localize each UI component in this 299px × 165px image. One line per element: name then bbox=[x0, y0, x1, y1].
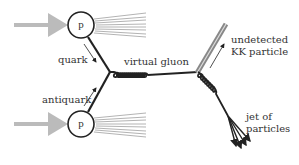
antiquark-label: antiquark bbox=[42, 95, 91, 105]
outgoing-gluon-coil bbox=[198, 72, 228, 116]
jet-label-line2: particles bbox=[246, 124, 290, 134]
proton-remnant-spray-bottom bbox=[94, 113, 146, 137]
jet-label-line1: jet of bbox=[246, 112, 272, 122]
proton-remnant-spray-top bbox=[94, 13, 146, 37]
virtual-gluon-coil bbox=[110, 72, 198, 77]
kk-particle-label-line1: undetected bbox=[231, 35, 288, 45]
quark-label: quark bbox=[58, 55, 88, 65]
proton-top-label: p bbox=[71, 18, 91, 30]
antiquark-line bbox=[88, 72, 110, 112]
diagram-canvas bbox=[0, 0, 299, 165]
feynman-diagram: p p quark antiquark virtual gluon undete… bbox=[0, 0, 299, 165]
virtual-gluon-label: virtual gluon bbox=[124, 57, 189, 67]
proton-bottom-label: p bbox=[71, 117, 91, 129]
kk-particle-label-line2: KK particle bbox=[231, 47, 288, 57]
